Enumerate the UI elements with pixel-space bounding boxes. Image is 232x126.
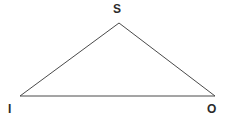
- vertex-label-o: O: [207, 103, 216, 115]
- triangle-diagram: S I O: [0, 0, 232, 126]
- triangle-shape: [0, 0, 232, 126]
- triangle-outline: [20, 23, 215, 96]
- vertex-label-i: I: [8, 103, 11, 115]
- vertex-label-s: S: [113, 3, 121, 15]
